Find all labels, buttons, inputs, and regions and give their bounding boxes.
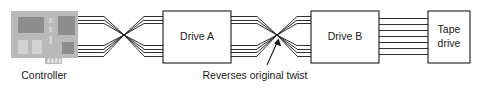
twist-strand bbox=[124, 20, 144, 35]
controller-component-strip-1 bbox=[49, 18, 52, 23]
cable-twist-diagram: Drive A bbox=[0, 0, 480, 91]
cable-controller-to-drive-a bbox=[78, 17, 163, 57]
controller-caption: Controller bbox=[21, 69, 67, 81]
annotation-arrow-shaft bbox=[267, 42, 278, 66]
twist-strand bbox=[124, 35, 144, 56]
controller-component-strip-3 bbox=[49, 36, 52, 44]
controller-socket-right bbox=[32, 40, 42, 54]
tape-drive-unit: Tape drive bbox=[428, 11, 470, 63]
controller-edge-finger-4 bbox=[59, 59, 61, 64]
controller-chip-small bbox=[62, 42, 74, 54]
controller-card bbox=[11, 11, 78, 64]
controller-component-strip-2 bbox=[49, 27, 52, 32]
twist-annotation-caption: Reverses original twist bbox=[202, 69, 307, 81]
drive-b-unit: Drive B bbox=[311, 11, 379, 63]
twist-strand bbox=[104, 35, 124, 56]
tape-drive-label-line1: Tape bbox=[438, 23, 461, 35]
cable-drive-a-to-drive-b bbox=[231, 17, 311, 57]
controller-edge-finger-2 bbox=[51, 59, 53, 64]
drive-b-label: Drive B bbox=[328, 30, 362, 42]
cable-twist-point-1 bbox=[104, 17, 144, 57]
twist-strand bbox=[104, 20, 124, 35]
twist-strand bbox=[257, 35, 277, 56]
controller-chip-right bbox=[58, 16, 75, 35]
diagram-canvas: Drive A bbox=[0, 0, 480, 91]
tape-drive-label-line2: drive bbox=[438, 37, 461, 49]
controller-edge-finger-3 bbox=[55, 59, 57, 64]
twist-strand bbox=[277, 20, 297, 35]
cable-twist-point-2 bbox=[257, 17, 297, 57]
drive-a-label: Drive A bbox=[180, 30, 214, 42]
twist-strand bbox=[257, 20, 277, 35]
drive-a-unit: Drive A bbox=[163, 11, 231, 63]
controller-socket-left bbox=[18, 40, 28, 54]
cable-drive-b-to-tape-drive bbox=[379, 18, 428, 54]
controller-chip-large bbox=[18, 17, 44, 33]
controller-edge-finger-1 bbox=[48, 59, 50, 64]
